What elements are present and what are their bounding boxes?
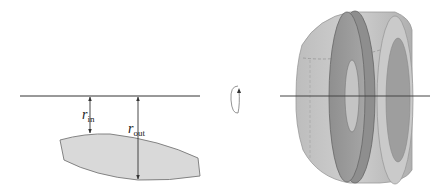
right-end-hole [386,38,410,162]
washer-method-diagram: rin rout [0,0,447,191]
r-in-label: rin [82,107,95,124]
rotation-arrow-icon [231,86,241,113]
left-panel: rin rout [20,96,200,180]
r-out-label: rout [128,121,145,138]
solid-of-revolution [280,11,430,184]
shaded-region [60,134,200,180]
